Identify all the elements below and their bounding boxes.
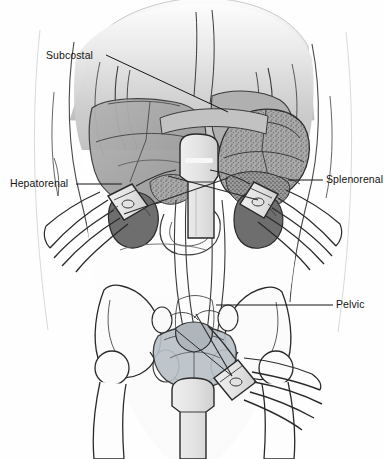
label-hepatorenal: Hepatorenal [10, 178, 68, 189]
label-splenorenal: Splenorenal [326, 174, 383, 185]
anatomy-artwork [0, 0, 384, 459]
label-subcostal: Subcostal [46, 50, 93, 61]
label-pelvic: Pelvic [336, 299, 365, 310]
medical-illustration-figure: Subcostal Hepatorenal Splenorenal Pelvic [0, 0, 384, 459]
